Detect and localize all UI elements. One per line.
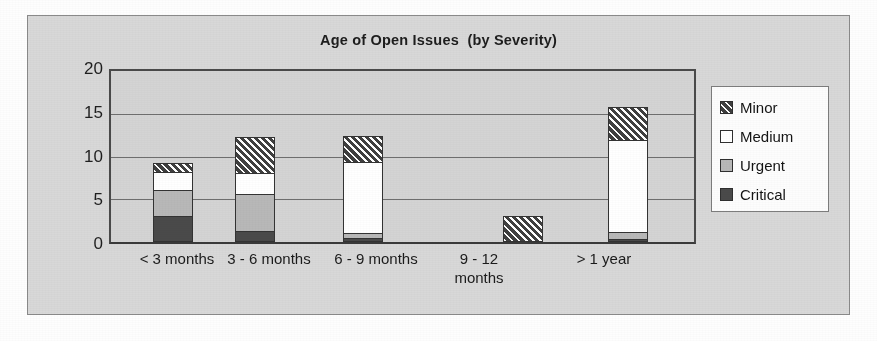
bar-segment-minor: [235, 137, 275, 173]
x-label-5: > 1 year: [549, 250, 659, 269]
bar-segment-medium: [608, 140, 648, 233]
bar-segment-critical: [343, 238, 383, 242]
bar-segment-medium: [235, 173, 275, 194]
y-tick-20: 20: [57, 59, 103, 79]
bar-segment-critical: [608, 239, 648, 243]
plot-area: [109, 69, 696, 244]
y-axis: 20 15 10 5 0: [48, 69, 103, 244]
bar-2: [235, 137, 275, 242]
x-label-4: 9 - 12 months: [429, 250, 529, 288]
chart-legend: Minor Medium Urgent Critical: [711, 86, 829, 212]
legend-label-minor: Minor: [740, 99, 778, 116]
x-label-2: 3 - 6 months: [209, 250, 329, 269]
x-axis-labels: < 3 months3 - 6 months6 - 9 months9 - 12…: [109, 250, 696, 310]
bar-3: [343, 136, 383, 242]
bar-segment-minor: [608, 107, 648, 139]
legend-label-critical: Critical: [740, 186, 786, 203]
bar-segment-critical: [153, 216, 193, 242]
bar-1: [153, 163, 193, 242]
x-label-3: 6 - 9 months: [316, 250, 436, 269]
bar-segment-medium: [153, 172, 193, 190]
legend-item-minor: Minor: [720, 93, 828, 122]
bar-segment-minor: [343, 136, 383, 161]
bar-segment-critical: [235, 231, 275, 242]
minor-swatch-icon: [720, 101, 733, 114]
gridline-15: [111, 114, 694, 115]
y-tick-15: 15: [57, 103, 103, 123]
bar-segment-minor: [153, 163, 193, 172]
legend-label-medium: Medium: [740, 128, 793, 145]
bar-5: [608, 107, 648, 242]
y-tick-5: 5: [57, 190, 103, 210]
scanned-page: Age of Open Issues (by Severity) 20 15 1…: [0, 0, 877, 341]
chart-frame: Age of Open Issues (by Severity) 20 15 1…: [27, 15, 850, 315]
y-tick-10: 10: [57, 147, 103, 167]
gridline-10: [111, 157, 694, 158]
gridline-5: [111, 199, 694, 200]
chart-title: Age of Open Issues (by Severity): [28, 32, 849, 48]
y-tick-0: 0: [57, 234, 103, 254]
bar-segment-minor: [503, 216, 543, 242]
critical-swatch-icon: [720, 188, 733, 201]
bar-segment-urgent: [235, 194, 275, 231]
bar-4: [503, 216, 543, 242]
legend-item-urgent: Urgent: [720, 151, 828, 180]
bar-segment-medium: [343, 162, 383, 234]
legend-item-medium: Medium: [720, 122, 828, 151]
bar-segment-urgent: [153, 190, 193, 216]
medium-swatch-icon: [720, 130, 733, 143]
legend-label-urgent: Urgent: [740, 157, 785, 174]
urgent-swatch-icon: [720, 159, 733, 172]
legend-item-critical: Critical: [720, 180, 828, 209]
